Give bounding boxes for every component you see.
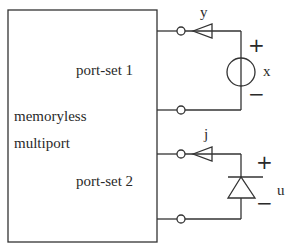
port1-plus-sign: + (248, 35, 265, 55)
port-set-1-label: port-set 1 (76, 63, 133, 78)
current-label-y: y (200, 5, 208, 20)
port1-terminal-bottom-icon (177, 106, 185, 114)
diode-triangle-icon (228, 177, 255, 198)
circuit-diagram (0, 0, 289, 249)
block-title-line2: multiport (14, 136, 70, 151)
port2-plus-sign: + (256, 152, 273, 172)
port1-minus-sign: − (248, 84, 265, 104)
port-set-2-label: port-set 2 (76, 174, 133, 189)
block-title-line1: memoryless (14, 109, 87, 124)
multiport-box (8, 10, 157, 242)
voltage-label-u: u (277, 183, 285, 198)
current-label-j: j (204, 127, 208, 142)
voltage-label-x: x (263, 64, 271, 79)
port1-terminal-top-icon (177, 27, 185, 35)
port2-terminal-top-icon (177, 150, 185, 158)
port2-terminal-bottom-icon (177, 215, 185, 223)
port2-minus-sign: − (256, 193, 273, 213)
